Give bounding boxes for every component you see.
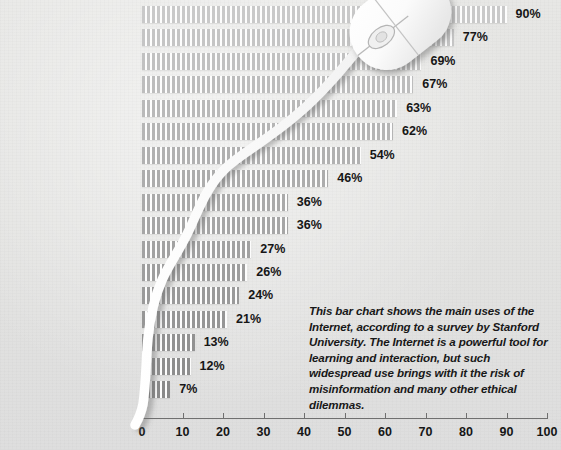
chart-caption: This bar chart shows the main uses of th…	[309, 303, 549, 412]
x-tick-mark	[223, 413, 224, 418]
x-tick-label: 10	[163, 425, 203, 439]
x-tick-label: 0	[122, 425, 162, 439]
x-tick-mark	[466, 413, 467, 418]
x-tick-label: 70	[406, 425, 446, 439]
x-tick-mark	[142, 413, 143, 418]
x-tick-mark	[426, 413, 427, 418]
x-tick-mark	[385, 413, 386, 418]
x-tick-mark	[547, 413, 548, 418]
x-tick-mark	[345, 413, 346, 418]
x-tick-mark	[264, 413, 265, 418]
x-tick-mark	[183, 413, 184, 418]
x-tick-label: 40	[284, 425, 324, 439]
bar-chart-figure: Email90%General information77%Surfing69%…	[0, 0, 561, 450]
x-tick-label: 100	[527, 425, 561, 439]
x-tick-label: 30	[244, 425, 284, 439]
x-tick-label: 50	[325, 425, 365, 439]
x-tick-label: 80	[446, 425, 486, 439]
x-tick-mark	[304, 413, 305, 418]
x-tick-label: 20	[203, 425, 243, 439]
x-tick-label: 60	[365, 425, 405, 439]
x-tick-label: 90	[487, 425, 527, 439]
x-tick-mark	[507, 413, 508, 418]
